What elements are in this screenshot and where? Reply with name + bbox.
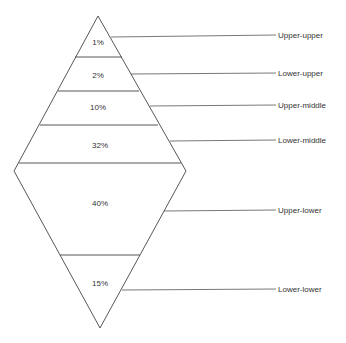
percent-lower-upper: 2% [92, 71, 104, 80]
percent-upper-upper: 1% [92, 38, 104, 47]
label-lower-lower: Lower-lower [278, 285, 322, 294]
leader-upper-upper [111, 35, 276, 37]
label-lower-upper: Lower-upper [278, 69, 323, 78]
label-upper-upper: Upper-upper [278, 31, 323, 40]
class-diagram: 1% 2% 10% 32% 40% 15% Upper-upper Lower-… [0, 0, 346, 343]
label-upper-lower: Upper-lower [278, 206, 322, 215]
label-lower-middle: Lower-middle [278, 136, 327, 145]
percent-lower-middle: 32% [92, 141, 108, 150]
leader-upper-middle [150, 105, 276, 106]
leader-lower-upper [131, 73, 276, 74]
percent-upper-lower: 40% [92, 199, 108, 208]
label-upper-middle: Upper-middle [278, 101, 327, 110]
percent-upper-middle: 10% [90, 103, 106, 112]
leader-lower-lower [122, 289, 276, 290]
leader-lower-middle [170, 140, 276, 141]
leader-upper-lower [164, 210, 276, 211]
percent-lower-lower: 15% [92, 279, 108, 288]
